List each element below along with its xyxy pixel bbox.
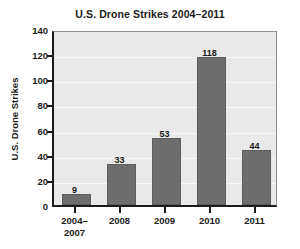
gridline <box>54 82 276 83</box>
bar <box>197 57 226 205</box>
y-axis-tick-label: 40 <box>8 152 48 162</box>
bar-value-label: 33 <box>100 155 140 165</box>
x-axis-tick-label: 2011 <box>224 215 286 227</box>
y-axis-tick-label: 60 <box>8 127 48 137</box>
bar-value-label: 9 <box>55 185 95 195</box>
x-axis-tick-mark <box>209 207 211 213</box>
x-axis-tick-mark <box>254 207 256 213</box>
chart-title: U.S. Drone Strikes 2004–2011 <box>0 8 300 20</box>
bar <box>107 164 136 205</box>
bar <box>152 138 181 205</box>
y-axis-tick-label: 140 <box>8 26 48 36</box>
bar-value-label: 53 <box>145 129 185 139</box>
plot-area <box>52 31 277 207</box>
x-axis-tick-mark <box>74 207 76 213</box>
gridline <box>54 57 276 58</box>
y-axis-tick-label: 100 <box>8 76 48 86</box>
x-axis-tick-mark <box>164 207 166 213</box>
y-axis-tick-label: 120 <box>8 51 48 61</box>
x-axis-tick-mark <box>119 207 121 213</box>
y-axis-tick-label: 80 <box>8 101 48 111</box>
bar <box>242 150 271 205</box>
bar-value-label: 44 <box>235 141 275 151</box>
bar-chart-figure: U.S. Drone Strikes 2004–2011 U.S. Drone … <box>0 0 300 249</box>
bar <box>62 194 91 205</box>
y-axis-tick-label: 0 <box>8 202 48 212</box>
bar-value-label: 118 <box>190 48 230 58</box>
y-axis-tick-label: 20 <box>8 177 48 187</box>
gridline <box>54 107 276 108</box>
